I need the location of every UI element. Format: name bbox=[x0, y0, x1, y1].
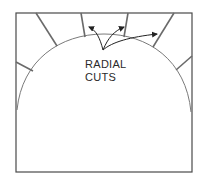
radial-cut-1 bbox=[36, 13, 57, 46]
label-radial: RADIAL bbox=[85, 58, 127, 70]
arrow-to-cut-2 bbox=[89, 27, 103, 50]
radial-cut-3 bbox=[124, 13, 128, 37]
block-outline bbox=[16, 13, 192, 172]
radial-cut-left-side bbox=[16, 62, 33, 71]
radial-cut-2 bbox=[81, 13, 85, 37]
label-cuts: CUTS bbox=[85, 71, 116, 83]
radial-cut-4 bbox=[153, 13, 174, 47]
radial-cut-right-side bbox=[176, 56, 192, 70]
arrow-to-cut-3 bbox=[103, 27, 124, 50]
arch-diagram bbox=[0, 0, 201, 179]
